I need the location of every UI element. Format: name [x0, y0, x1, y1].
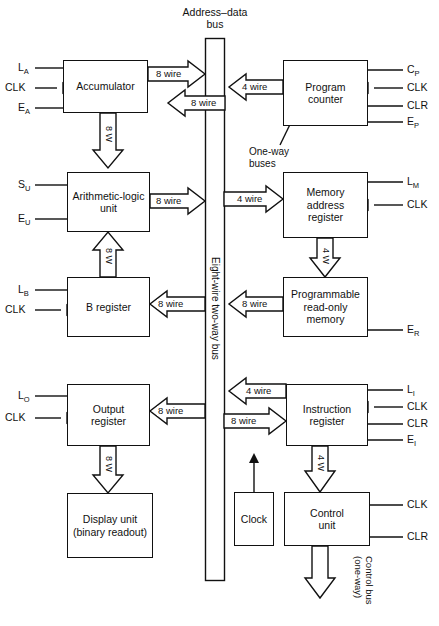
width-label-acc-out: 8 wire	[155, 69, 182, 79]
width-label-acc-in: 8 wire	[190, 98, 217, 108]
page-title: Address–data bus	[166, 6, 264, 30]
output-register-label-2: register	[91, 415, 126, 428]
signal-label-lm: LM	[407, 176, 419, 191]
one-way-line-1: One-way	[249, 146, 289, 157]
signal-label-eu: EU	[18, 213, 30, 228]
block-accumulator-label: Accumulator	[76, 80, 134, 93]
title-line-2: bus	[207, 18, 224, 30]
block-b-register[interactable]: B register	[67, 277, 150, 337]
one-way-line-2: buses	[249, 158, 276, 169]
annotation-control-bus-line-2: (one-way)	[353, 556, 364, 598]
signal-label-ei: EI	[407, 434, 416, 449]
signal-label-clr-instruction-register: CLR	[407, 418, 428, 429]
block-accumulator[interactable]: Accumulator	[63, 60, 148, 113]
signal-label-clk-control-unit: CLK	[407, 499, 427, 510]
display-unit-label-1: Display unit	[83, 513, 137, 526]
title-line-1: Address–data	[183, 6, 248, 18]
width-label-ir-out: 4 wire	[245, 386, 272, 396]
output-register-label-1: Output	[93, 403, 125, 416]
block-control-unit[interactable]: Control unit	[284, 492, 370, 546]
signal-label-clk-program-counter: CLK	[407, 82, 427, 93]
width-label-ir-in: 8 wire	[230, 416, 257, 426]
block-clock[interactable]: Clock	[234, 492, 274, 546]
arrowhead-clock-up	[249, 453, 259, 463]
width-label-prom-out: 8 wire	[241, 299, 268, 309]
block-arithmetic-logic-unit[interactable]: Arithmetic-logic unit	[67, 172, 150, 232]
width-label-acc-to-alu: 8 W	[104, 126, 113, 142]
width-label-b-to-alu: 8 W	[104, 248, 113, 264]
width-label-pc-bus: 4 wire	[241, 82, 268, 92]
alu-label-line-1: Arithmetic-logic	[73, 190, 145, 203]
mar-label-3: register	[308, 211, 343, 224]
width-label-ir-to-cu: 4 W	[316, 455, 325, 471]
width-label-alu-out: 8 wire	[155, 196, 182, 206]
width-label-out-to-display: 8 W	[104, 456, 113, 472]
width-label-mar-bus: 4 wire	[236, 194, 263, 204]
block-output-register[interactable]: Output register	[67, 384, 150, 446]
signal-label-er: ER	[407, 324, 419, 339]
block-programmable-read-only-memory[interactable]: Programmable read-only memory	[283, 277, 368, 337]
mar-label-2: address	[307, 199, 344, 212]
central-bus-label: Eight-wire two-way bus	[210, 257, 221, 360]
clock-label: Clock	[241, 513, 267, 526]
instruction-register-label-2: register	[309, 415, 344, 428]
annotation-one-way-buses: One-way buses	[249, 146, 289, 170]
signal-label-clk-mar: CLK	[407, 199, 427, 210]
arrow-control-bus-out	[305, 546, 335, 598]
instruction-register-label-1: Instruction	[303, 403, 351, 416]
width-label-out-in: 8 wire	[157, 406, 184, 416]
signal-label-su: SU	[18, 179, 30, 194]
mar-label-1: Memory	[307, 186, 345, 199]
signal-label-la: LA	[18, 62, 29, 77]
width-label-b-in: 8 wire	[157, 299, 184, 309]
prom-label-1: Programmable	[291, 288, 360, 301]
b-register-label: B register	[86, 301, 131, 314]
prom-label-2: read-only	[304, 301, 348, 314]
block-display-unit[interactable]: Display unit (binary readout)	[67, 493, 153, 558]
block-diagram-canvas: Address–data bus Accumulator Arithmetic-…	[0, 0, 439, 626]
signal-label-clk-accumulator: CLK	[5, 82, 25, 93]
signal-label-clk-b-register: CLK	[5, 304, 25, 315]
width-label-mar-to-prom: 4 W	[321, 248, 330, 264]
signal-label-clr-program-counter: CLR	[407, 100, 428, 111]
control-unit-label-1: Control	[310, 507, 344, 520]
annotation-control-bus-line-1: Control bus	[364, 556, 375, 605]
block-memory-address-register[interactable]: Memory address register	[283, 172, 368, 238]
alu-label-line-2: unit	[100, 202, 117, 215]
signal-label-li: LI	[407, 384, 415, 399]
prom-label-3: memory	[307, 313, 345, 326]
display-unit-label-2: (binary readout)	[73, 526, 147, 539]
block-instruction-register[interactable]: Instruction register	[286, 384, 368, 446]
block-program-counter[interactable]: Program counter	[283, 60, 368, 126]
signal-label-cp: CP	[407, 64, 420, 79]
signal-label-ep: EP	[407, 116, 419, 131]
control-unit-label-2: unit	[319, 519, 336, 532]
signal-label-ea: EA	[18, 102, 30, 117]
program-counter-label-2: counter	[308, 93, 343, 106]
signal-label-clk-instruction-register: CLK	[407, 401, 427, 412]
signal-label-clr-control-unit: CLR	[407, 531, 428, 542]
program-counter-label-1: Program	[305, 81, 345, 94]
signal-label-lb: LB	[18, 284, 29, 299]
signal-label-clk-output-register: CLK	[5, 412, 25, 423]
signal-label-lo: LO	[18, 390, 30, 405]
